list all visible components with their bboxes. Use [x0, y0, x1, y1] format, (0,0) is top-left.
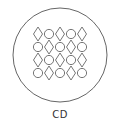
diamond-shape: [45, 40, 54, 54]
shape-grid: [33, 27, 86, 80]
circle-shape: [33, 68, 42, 77]
diamond-shape: [67, 66, 76, 80]
diamond-shape: [78, 27, 87, 41]
diamond-shape: [45, 66, 54, 80]
diagram-label: CD: [0, 109, 120, 120]
diagram-figure: [0, 0, 120, 126]
diamond-shape: [78, 53, 87, 67]
diamond-shape: [56, 27, 65, 41]
circle-shape: [66, 29, 75, 38]
circle-shape: [55, 42, 64, 51]
outer-circle: [13, 8, 107, 102]
circle-shape: [77, 42, 86, 51]
circle-shape: [77, 68, 86, 77]
diamond-shape: [34, 53, 43, 67]
circle-shape: [44, 29, 53, 38]
diamond-shape: [56, 53, 65, 67]
diamond-shape: [67, 40, 76, 54]
circle-shape: [33, 42, 42, 51]
circle-shape: [55, 68, 64, 77]
circle-shape: [66, 55, 75, 64]
diamond-shape: [34, 27, 43, 41]
circle-shape: [44, 55, 53, 64]
